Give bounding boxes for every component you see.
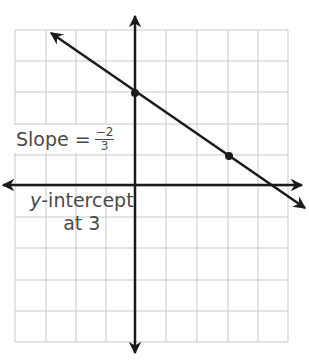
- intercept-variable: y: [30, 189, 41, 211]
- slope-denominator: 3: [101, 140, 109, 153]
- axes: [3, 16, 302, 353]
- intercept-line2: at 3: [30, 214, 134, 233]
- slope-fraction: −2 3: [95, 126, 115, 152]
- intercept-line1: y-intercept: [30, 191, 134, 210]
- plotted-line: [51, 33, 305, 208]
- second-point: [225, 152, 233, 160]
- slope-prefix: Slope =: [16, 130, 91, 149]
- y-intercept-point: [131, 89, 139, 97]
- slope-label: Slope = −2 3: [14, 125, 116, 153]
- coordinate-graph: [0, 0, 309, 361]
- slope-numerator: −2: [95, 126, 115, 140]
- intercept-text: -intercept: [41, 189, 133, 211]
- y-intercept-label: y-intercept at 3: [28, 191, 136, 233]
